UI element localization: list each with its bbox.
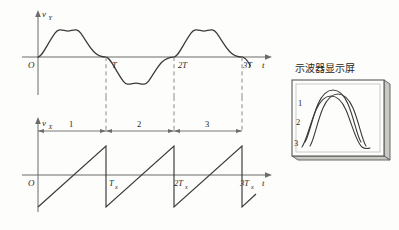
oscilloscope-curve-label-2: 2 [296,117,300,127]
top-chart-y-axis-subscript: Y [49,14,53,21]
top-chart-tick-label-t2: 2T [178,60,188,70]
top-chart-tick-label-t3: 3T [242,60,253,70]
oscilloscope-curve-label-3: 3 [294,138,298,148]
top-chart-y-axis [35,10,41,95]
segment-label-1: 1 [69,119,73,129]
segment-label-2: 2 [137,119,141,129]
oscilloscope-curve-label-1: 1 [298,98,302,108]
oscilloscope-panel: 示波器显示屏 1 2 3 [292,62,390,160]
bottom-chart-tick-subscript-1: x [114,183,118,190]
top-chart-tick-label-t1: T [112,60,118,70]
bottom-chart-tick-subscript-2: x [184,183,188,190]
bottom-chart-y-axis-arrow [35,117,41,124]
bottom-chart-tick-label-tx3-group: 3T x [239,178,254,190]
bottom-chart-x-axis [22,172,272,178]
segment-arrow-1-left [38,129,44,133]
bottom-chart-y-axis-subscript: X [48,123,53,130]
segment-arrow-1-right [100,129,106,133]
bottom-chart-tick-label-tx2: 2T [174,178,184,188]
top-chart-origin-label: O [28,60,35,70]
top-chart-group: v Y t O T 2T 3T [22,9,272,97]
segment-arrow-2-left [106,129,112,133]
figure-canvas: v Y t O T 2T 3T [0,0,399,230]
top-chart-x-axis-label: t [262,60,265,70]
bottom-chart-tick-subscript-3: x [250,183,254,190]
bottom-chart-sawtooth-wave [38,146,256,207]
bottom-chart-x-axis-arrow [265,172,272,178]
oscilloscope-waveform-figure: v Y t O T 2T 3T [0,0,399,230]
bottom-chart-segment-measures: 1 2 3 [38,119,242,133]
segment-arrow-2-right [168,129,174,133]
top-chart-y-axis-arrow [35,10,41,17]
bottom-chart-origin-label: O [28,178,35,188]
bottom-chart-group: 1 2 3 v X t O [22,97,272,212]
bottom-chart-y-axis-label: v [42,118,46,128]
oscilloscope-frame-shadow-right [384,80,390,160]
bottom-chart-tick-label-tx1-group: T x [109,178,118,190]
oscilloscope-caption: 示波器显示屏 [295,62,355,74]
bottom-chart-tick-label-tx3: 3T [239,178,250,188]
segment-arrow-3-left [174,129,180,133]
top-chart-x-axis-arrow [265,54,272,60]
bottom-chart-tick-label-tx2-group: 2T x [174,178,188,190]
bottom-chart-x-axis-label: t [262,178,265,188]
oscilloscope-frame-shadow-bottom [292,156,390,160]
segment-arrow-3-right [236,129,242,133]
segment-label-3: 3 [205,119,209,129]
top-chart-y-axis-label: v [42,9,46,19]
